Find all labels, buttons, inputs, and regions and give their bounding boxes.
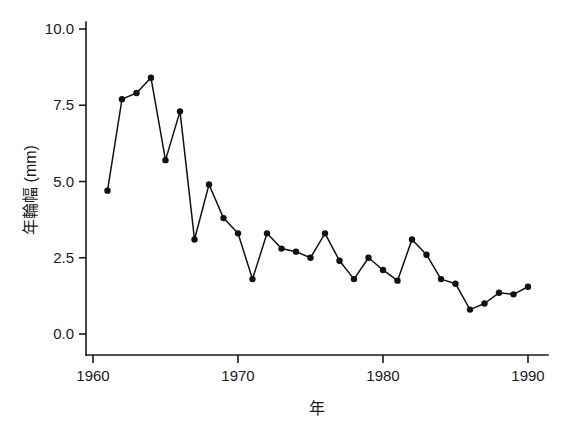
data-point xyxy=(438,276,444,282)
x-tick-label: 1960 xyxy=(76,367,109,384)
y-axis-title: 年輪幅 (mm) xyxy=(22,145,39,235)
data-point xyxy=(496,290,502,296)
data-point xyxy=(510,291,516,297)
data-point xyxy=(409,236,415,242)
x-tick-label: 1980 xyxy=(366,367,399,384)
y-tick-label: 0.0 xyxy=(53,325,74,342)
data-point xyxy=(452,280,458,286)
data-point xyxy=(162,157,168,163)
data-point xyxy=(394,277,400,283)
x-axis-title: 年 xyxy=(309,400,325,417)
data-point xyxy=(177,108,183,114)
y-tick-label: 7.5 xyxy=(53,96,74,113)
data-point xyxy=(365,255,371,261)
data-point xyxy=(119,96,125,102)
data-point xyxy=(206,181,212,187)
data-point xyxy=(235,230,241,236)
data-point xyxy=(423,252,429,258)
x-tick-label: 1970 xyxy=(221,367,254,384)
y-tick-label: 10.0 xyxy=(45,20,74,37)
data-point xyxy=(191,236,197,242)
data-point xyxy=(148,75,154,81)
data-point xyxy=(336,258,342,264)
data-point xyxy=(322,230,328,236)
data-point xyxy=(481,300,487,306)
y-tick-label: 5.0 xyxy=(53,173,74,190)
chart-container: 0.02.55.07.510.0 1960197019801990 年 年輪幅 … xyxy=(0,0,566,428)
y-tick-label: 2.5 xyxy=(53,249,74,266)
data-point xyxy=(307,255,313,261)
line-chart: 0.02.55.07.510.0 1960197019801990 年 年輪幅 … xyxy=(0,0,566,428)
data-point xyxy=(293,248,299,254)
data-point xyxy=(351,276,357,282)
data-point xyxy=(467,306,473,312)
data-point xyxy=(525,284,531,290)
data-point xyxy=(220,215,226,221)
data-point xyxy=(264,230,270,236)
data-point xyxy=(278,245,284,251)
data-point xyxy=(133,90,139,96)
chart-background xyxy=(0,0,566,428)
data-point xyxy=(380,267,386,273)
x-tick-label: 1990 xyxy=(511,367,544,384)
data-point xyxy=(249,276,255,282)
data-point xyxy=(104,187,110,193)
